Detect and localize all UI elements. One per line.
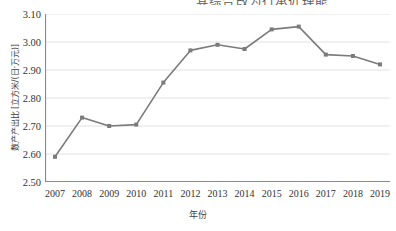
- x-axis-tick-label: 2014: [235, 188, 255, 199]
- x-axis-tick-label: 2008: [72, 188, 92, 199]
- plot-area: 2.502.602.702.802.903.003.10: [45, 14, 390, 182]
- x-axis-tick-label: 2007: [45, 188, 65, 199]
- x-axis-tick-label: 2015: [262, 188, 282, 199]
- series-markers: [53, 25, 382, 159]
- y-axis-tick-label: 2.70: [23, 121, 41, 132]
- y-axis-tick-label: 2.80: [23, 93, 41, 104]
- x-axis-tick-label: 2009: [99, 188, 119, 199]
- x-axis-tick-label: 2010: [126, 188, 146, 199]
- x-axis-tick-labels: 2007200820092010201120122013201420152016…: [45, 188, 390, 206]
- gridlines: [45, 14, 390, 154]
- x-axis-tick-label: 2019: [370, 188, 390, 199]
- y-axis-tick-label: 2.90: [23, 65, 41, 76]
- y-axis-title: 数产产出比 [立方米/(日·万元)]: [9, 8, 20, 188]
- y-axis-tick-label: 2.60: [23, 149, 41, 160]
- x-axis-title: 年份: [0, 208, 396, 221]
- x-axis-tick-label: 2013: [208, 188, 228, 199]
- x-axis-tick-label: 2012: [180, 188, 200, 199]
- x-axis-tick-label: 2011: [154, 188, 174, 199]
- y-axis-tick-label: 3.10: [23, 9, 41, 20]
- y-axis-tick-label: 2.50: [23, 177, 41, 188]
- chart-canvas: [45, 14, 390, 182]
- x-axis-tick-label: 2017: [316, 188, 336, 199]
- y-axis-tick-label: 3.00: [23, 37, 41, 48]
- x-axis-tick-label: 2016: [289, 188, 309, 199]
- line-chart-figure: 数产产出比 [立方米/(日·万元)] 2.502.602.702.802.903…: [0, 0, 396, 231]
- x-axis-tick-label: 2018: [343, 188, 363, 199]
